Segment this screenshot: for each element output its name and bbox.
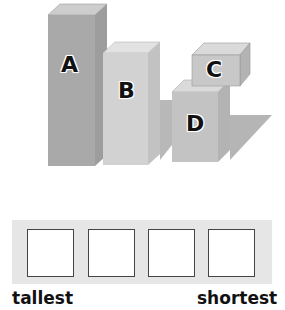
answer-slot-2[interactable] [88, 229, 135, 277]
answer-slot-1[interactable] [27, 229, 74, 277]
block-d-label: D [186, 111, 204, 136]
answer-slot-4[interactable] [208, 229, 255, 277]
block-b-label: B [118, 78, 135, 103]
shortest-label: shortest [197, 288, 277, 308]
answer-slot-3[interactable] [148, 229, 195, 277]
block-a-label: A [61, 52, 78, 77]
blocks-illustration [0, 0, 285, 180]
tallest-label: tallest [12, 288, 73, 308]
block-c-label: C [206, 57, 222, 82]
